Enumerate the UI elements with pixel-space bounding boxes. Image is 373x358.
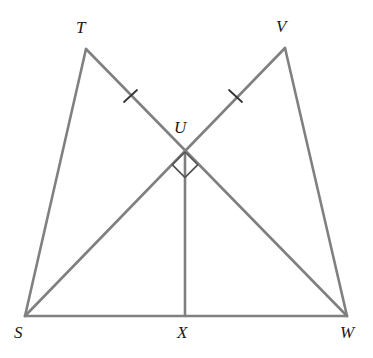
vertex-label-X: X	[177, 324, 187, 341]
segment-VW	[285, 48, 347, 316]
vertex-label-V: V	[276, 18, 286, 35]
segment-ST	[25, 49, 86, 316]
segment-TW	[86, 49, 347, 316]
segments-group	[25, 48, 347, 316]
vertex-label-S: S	[14, 324, 23, 341]
segment-SV	[25, 48, 285, 316]
tick-marks-group	[124, 90, 242, 102]
vertex-label-W: W	[340, 324, 354, 341]
geometry-canvas	[0, 0, 373, 358]
vertex-label-U: U	[174, 119, 186, 136]
geometry-figure: T V U S X W	[0, 0, 373, 358]
vertex-label-T: T	[76, 19, 85, 36]
